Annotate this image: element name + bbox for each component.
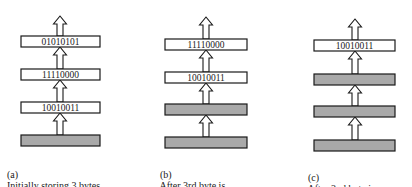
up-arrow-icon [349, 117, 362, 140]
up-arrow-icon [349, 85, 362, 106]
up-arrow-icon [200, 17, 213, 39]
empty-cell-box [314, 140, 395, 151]
stack-cell: 11110000 [21, 69, 100, 80]
caption-a-line1: Initially storing 3 bytes. [7, 180, 103, 187]
caption-b-line1: After 3rd byte is [159, 180, 225, 187]
stack-cell: 10010011 [314, 40, 395, 51]
empty-cell-box [314, 106, 395, 117]
cell-value: 10010011 [42, 103, 80, 113]
caption-c-line1: After 2nd byte is [307, 183, 375, 187]
up-arrow-icon [349, 51, 362, 74]
cell-value: 11110000 [188, 40, 225, 50]
caption-b-label: (b) [160, 169, 172, 180]
stack-cell: 01010101 [21, 36, 100, 47]
stack-panel-c: 10010011 [314, 19, 395, 151]
stack-panel-a: 010101011111000010010011 [21, 16, 100, 146]
cell-value: 10010011 [336, 41, 374, 51]
empty-stack-cell [314, 106, 395, 117]
empty-cell-box [314, 74, 395, 85]
stack-cell: 10010011 [21, 102, 100, 113]
empty-stack-cell [165, 104, 247, 115]
stack-cell: 11110000 [165, 39, 247, 50]
up-arrow-icon [54, 113, 67, 135]
empty-stack-cell [314, 140, 395, 151]
stack-cell: 10010011 [165, 72, 247, 83]
caption-a-label: (a) [7, 169, 18, 180]
caption-c: (c) After 2nd byte is pulled from stack. [303, 161, 393, 187]
up-arrow-icon [200, 50, 213, 72]
stack-panel-b: 1111000010010011 [165, 17, 247, 148]
caption-b: (b) After 3rd byte is pulled from stack. [155, 158, 245, 187]
empty-cell-box [21, 135, 100, 146]
up-arrow-icon [349, 19, 362, 40]
up-arrow-icon [54, 80, 67, 102]
cell-value: 10010011 [187, 73, 225, 83]
empty-stack-cell [314, 74, 395, 85]
up-arrow-icon [54, 47, 67, 69]
cell-value: 11110000 [42, 70, 79, 80]
caption-c-label: (c) [308, 172, 319, 183]
up-arrow-icon [200, 83, 213, 104]
empty-stack-cell [165, 137, 247, 148]
caption-a: (a) Initially storing 3 bytes. [2, 158, 103, 187]
empty-cell-box [165, 137, 247, 148]
empty-stack-cell [21, 135, 100, 146]
cell-value: 01010101 [42, 37, 80, 47]
empty-cell-box [165, 104, 247, 115]
up-arrow-icon [54, 16, 67, 36]
up-arrow-icon [200, 115, 213, 137]
